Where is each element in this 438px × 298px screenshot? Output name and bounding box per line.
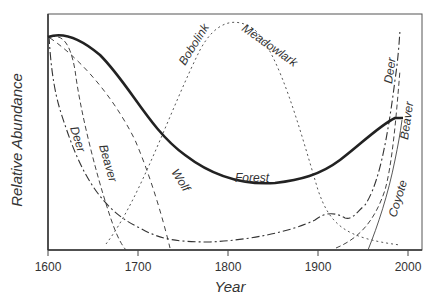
tick-1900: 1900 — [305, 260, 332, 274]
x-ticks — [48, 250, 408, 256]
series-deer — [49, 30, 400, 242]
label-beaver-left: Beaver — [96, 143, 120, 184]
series-bobolink-meadowlark — [106, 22, 400, 245]
label-forest: Forest — [235, 171, 270, 185]
series-beaver-right — [336, 70, 400, 248]
x-axis-label: Year — [215, 278, 247, 295]
label-wolf: Wolf — [168, 166, 193, 195]
tick-1800: 1800 — [215, 260, 242, 274]
series-beaver-left — [50, 36, 126, 250]
label-meadowlark: Meadowlark — [239, 21, 301, 70]
label-beaver-right: Beaver — [397, 100, 416, 141]
label-bobolink: Bobolink — [176, 20, 213, 67]
y-axis-label: Relative Abundance — [8, 73, 25, 207]
plot-frame — [48, 14, 422, 250]
abundance-chart: 1600 1700 1800 1900 2000 Year Relative A… — [0, 0, 438, 298]
tick-2000: 2000 — [395, 260, 422, 274]
tick-1700: 1700 — [125, 260, 152, 274]
tick-1600: 1600 — [35, 260, 62, 274]
label-deer-right: Deer — [381, 56, 399, 85]
